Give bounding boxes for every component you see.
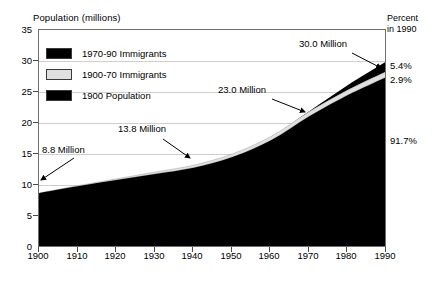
annotation-30-0-million: 30.0 Million — [299, 38, 347, 49]
x-tick-mark-1980 — [346, 247, 347, 252]
gridline-5 — [39, 216, 385, 217]
y-tick-mark-30 — [33, 60, 38, 61]
percent-label-1970-90-immigrants: 5.4% — [390, 60, 412, 71]
x-tick-mark-1940 — [192, 247, 193, 252]
x-tick-1950: 1950 — [211, 251, 251, 261]
x-tick-1940: 1940 — [172, 251, 212, 261]
legend-swatch-1900-70-immigrants — [46, 69, 72, 80]
gridline-10 — [39, 185, 385, 186]
x-tick-mark-1910 — [77, 247, 78, 252]
legend-item-1970-90-immigrants: 1970-90 Immigrants — [46, 44, 166, 62]
legend-swatch-1970-90-immigrants — [46, 48, 72, 59]
x-tick-mark-1900 — [38, 247, 39, 252]
legend-item-1900-70-immigrants: 1900-70 Immigrants — [46, 65, 166, 83]
x-tick-1980: 1980 — [326, 251, 366, 261]
y-tick-mark-25 — [33, 91, 38, 92]
legend: 1970-90 Immigrants 1900-70 Immigrants 19… — [46, 44, 166, 107]
legend-item-1900-population: 1900 Population — [46, 86, 166, 104]
x-tick-1900: 1900 — [18, 251, 58, 261]
y-tick-10: 10 — [2, 180, 32, 190]
y-tick-15: 15 — [2, 149, 32, 159]
x-tick-mark-1960 — [269, 247, 270, 252]
y-tick-mark-15 — [33, 153, 38, 154]
y-tick-mark-5 — [33, 215, 38, 216]
x-tick-mark-1970 — [308, 247, 309, 252]
x-tick-1990: 1990 — [365, 251, 405, 261]
x-tick-mark-1950 — [231, 247, 232, 252]
x-tick-mark-1930 — [154, 247, 155, 252]
y-tick-30: 30 — [2, 56, 32, 66]
annotation-23-0-million: 23.0 Million — [218, 84, 266, 95]
x-tick-1930: 1930 — [134, 251, 174, 261]
x-tick-1910: 1910 — [57, 251, 97, 261]
y-tick-mark-10 — [33, 184, 38, 185]
percent-label-1900-70-immigrants: 2.9% — [390, 74, 412, 85]
legend-swatch-1900-population — [46, 90, 72, 101]
y-axis-title: Population (millions) — [33, 12, 121, 23]
y-tick-20: 20 — [2, 118, 32, 128]
legend-label-1900-population: 1900 Population — [82, 90, 151, 101]
x-tick-1960: 1960 — [249, 251, 289, 261]
x-tick-1920: 1920 — [95, 251, 135, 261]
annotation-8-8-million: 8.8 Million — [42, 144, 85, 155]
legend-label-1970-90-immigrants: 1970-90 Immigrants — [82, 48, 166, 59]
x-tick-mark-1920 — [115, 247, 116, 252]
y-tick-mark-20 — [33, 122, 38, 123]
gridline-20 — [39, 123, 385, 124]
x-tick-mark-1990 — [385, 247, 386, 252]
y-tick-35: 35 — [2, 25, 32, 35]
legend-label-1900-70-immigrants: 1900-70 Immigrants — [82, 69, 166, 80]
percent-label-1900-population: 91.7% — [390, 135, 417, 146]
right-panel-header-line2: in 1990 — [387, 24, 418, 35]
gridline-15 — [39, 154, 385, 155]
right-panel-header: Percent in 1990 — [387, 13, 418, 34]
x-tick-1970: 1970 — [288, 251, 328, 261]
y-tick-25: 25 — [2, 87, 32, 97]
annotation-13-8-million: 13.8 Million — [118, 123, 166, 134]
y-tick-5: 5 — [2, 211, 32, 221]
immigration-population-area-chart: Population (millions) Percent in 1990 35… — [0, 0, 435, 283]
right-panel-header-line1: Percent — [387, 13, 418, 24]
